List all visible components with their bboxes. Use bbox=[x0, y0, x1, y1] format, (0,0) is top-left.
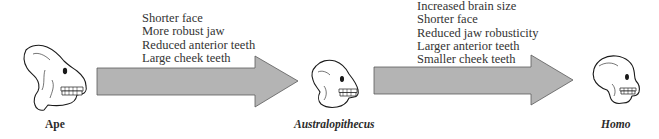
stage-label-australopithecus: Australopithecus bbox=[294, 118, 375, 130]
trait-list-australopithecus-to-homo: Increased brain size Shorter face Reduce… bbox=[417, 0, 539, 66]
trait-item: More robust jaw bbox=[142, 25, 255, 38]
trait-item: Large cheek teeth bbox=[142, 52, 255, 65]
trait-item: Shorter face bbox=[417, 13, 539, 26]
stage-label-ape: Ape bbox=[45, 118, 65, 130]
trait-list-ape-to-australopithecus: Shorter face More robust jaw Reduced ant… bbox=[142, 12, 255, 65]
ape-skull-icon bbox=[24, 45, 86, 110]
trait-item: Reduced anterior teeth bbox=[142, 39, 255, 52]
trait-item: Reduced jaw robusticity bbox=[417, 27, 539, 40]
trait-item: Larger anterior teeth bbox=[417, 40, 539, 53]
australopithecus-skull-icon bbox=[312, 60, 358, 107]
homo-skull-icon bbox=[593, 56, 639, 103]
stage-label-homo: Homo bbox=[601, 118, 630, 130]
trait-item: Shorter face bbox=[142, 12, 255, 25]
trait-item: Smaller cheek teeth bbox=[417, 53, 539, 66]
trait-item: Increased brain size bbox=[417, 0, 539, 13]
